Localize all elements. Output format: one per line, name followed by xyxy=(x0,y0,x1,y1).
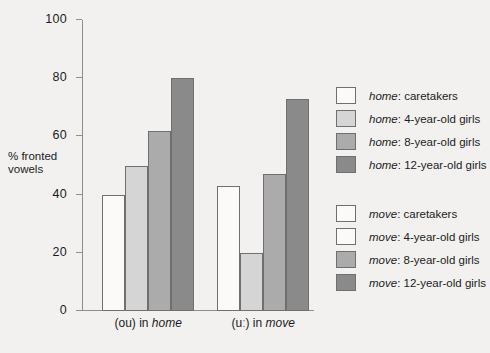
y-tick: 0 xyxy=(76,310,82,311)
y-tick: 80 xyxy=(76,77,82,78)
y-tick-label: 80 xyxy=(52,70,67,84)
plot-area: 020406080100 xyxy=(82,20,314,311)
legend-swatch xyxy=(336,156,356,173)
legend-swatch xyxy=(336,251,356,268)
legend-swatch xyxy=(336,274,356,291)
legend-label-text: : 4-year-old girls xyxy=(398,113,480,125)
y-tick: 60 xyxy=(76,135,82,136)
legend-label-text: : 12-year-old girls xyxy=(398,159,487,171)
legend-swatch xyxy=(336,87,356,104)
legend-label-keyword: move xyxy=(369,254,397,266)
legend-group-home: home: caretakershome: 4-year-old girlsho… xyxy=(336,84,486,176)
x-axis-label: (ou) in home xyxy=(115,316,182,330)
y-tick-label: 60 xyxy=(52,128,67,142)
y-tick-label: 40 xyxy=(52,186,67,200)
bar xyxy=(102,195,125,311)
legend-item: move: caretakers xyxy=(336,202,486,225)
y-tick-label: 100 xyxy=(45,12,67,26)
y-axis-title: % fronted vowels xyxy=(8,150,78,176)
bar xyxy=(148,131,171,311)
legend-item: move: 8-year-old girls xyxy=(336,248,486,271)
legend-label-text: : caretakers xyxy=(398,90,458,102)
y-tick: 40 xyxy=(76,194,82,195)
y-tick: 100 xyxy=(76,19,82,20)
legend-label-text: : 8-year-old girls xyxy=(397,254,479,266)
legend-item: home: 8-year-old girls xyxy=(336,130,486,153)
y-tick: 20 xyxy=(76,252,82,253)
legend-label: home: 12-year-old girls xyxy=(369,159,487,171)
bar xyxy=(125,166,148,312)
legend-label-text: : 12-year-old girls xyxy=(397,277,486,289)
legend-label-keyword: home xyxy=(369,136,398,148)
legend-swatch xyxy=(336,228,356,245)
legend-label-text: : 8-year-old girls xyxy=(398,136,480,148)
legend-label-keyword: move xyxy=(369,277,397,289)
legend-label-keyword: move xyxy=(369,208,397,220)
chart-figure: % fronted vowels 020406080100 (ou) in ho… xyxy=(0,0,490,353)
legend-label: home: caretakers xyxy=(369,90,458,102)
x-axis-label-word: move xyxy=(266,316,295,330)
x-axis-label-prefix: (uː) in xyxy=(232,316,266,330)
y-tick-label: 0 xyxy=(60,303,67,317)
legend-label: home: 4-year-old girls xyxy=(369,113,480,125)
legend-label: home: 8-year-old girls xyxy=(369,136,480,148)
legend-label-keyword: move xyxy=(369,231,397,243)
x-axis-label-word: home xyxy=(152,316,182,330)
legend-label: move: 12-year-old girls xyxy=(369,277,486,289)
bar xyxy=(171,78,194,311)
legend-label-keyword: home xyxy=(369,113,398,125)
legend: home: caretakershome: 4-year-old girlsho… xyxy=(336,84,486,294)
y-tick-label: 20 xyxy=(52,245,67,259)
legend-item: home: caretakers xyxy=(336,84,486,107)
bar xyxy=(217,186,240,311)
legend-label-text: : caretakers xyxy=(397,208,457,220)
x-axis-label-prefix: (ou) in xyxy=(115,316,152,330)
bar xyxy=(286,99,309,311)
x-axis-label: (uː) in move xyxy=(232,316,295,330)
legend-label-keyword: home xyxy=(369,90,398,102)
legend-swatch xyxy=(336,205,356,222)
bar xyxy=(240,253,263,311)
legend-swatch xyxy=(336,133,356,150)
legend-label: move: caretakers xyxy=(369,208,457,220)
bar xyxy=(263,174,286,311)
legend-swatch xyxy=(336,110,356,127)
legend-item: home: 4-year-old girls xyxy=(336,107,486,130)
legend-group-move: move: caretakersmove: 4-year-old girlsmo… xyxy=(336,202,486,294)
legend-label-text: : 4-year-old girls xyxy=(397,231,479,243)
legend-label: move: 8-year-old girls xyxy=(369,254,480,266)
legend-item: move: 12-year-old girls xyxy=(336,271,486,294)
y-axis-line xyxy=(82,20,83,311)
legend-item: move: 4-year-old girls xyxy=(336,225,486,248)
legend-label-keyword: home xyxy=(369,159,398,171)
legend-item: home: 12-year-old girls xyxy=(336,153,486,176)
legend-label: move: 4-year-old girls xyxy=(369,231,480,243)
